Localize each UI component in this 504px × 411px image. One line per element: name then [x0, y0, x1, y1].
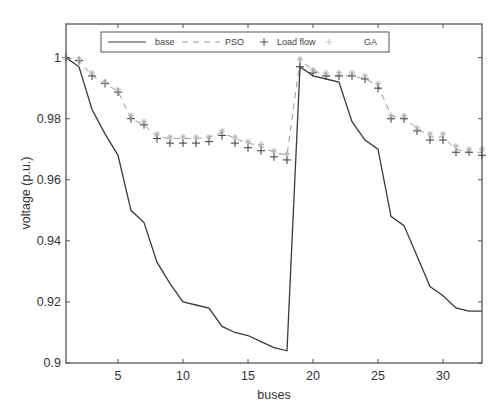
x-tick-label: 10: [176, 369, 190, 383]
x-axis-label: buses: [257, 388, 290, 402]
y-tick-label: 0.92: [37, 295, 61, 309]
y-tick-label: 0.94: [37, 234, 61, 248]
y-tick-label: 0.96: [37, 173, 61, 187]
voltage-profile-chart: 510152025300.90.920.940.960.981 buses vo…: [0, 0, 504, 411]
y-tick-label: 0.9: [44, 356, 61, 370]
legend-label-ga: GA: [364, 37, 377, 47]
chart-background: [0, 0, 504, 411]
legend: base PSO Load flow GA: [101, 32, 389, 52]
legend-label-pso: PSO: [225, 37, 244, 47]
y-tick-label: 0.98: [37, 112, 61, 126]
y-tick-label: 1: [54, 51, 61, 65]
x-tick-label: 30: [436, 369, 450, 383]
x-tick-label: 5: [115, 369, 122, 383]
x-tick-label: 15: [241, 369, 255, 383]
legend-label-loadflow: Load flow: [277, 37, 316, 47]
y-axis-label: voltage (p.u.): [19, 157, 33, 230]
legend-label-base: base: [155, 37, 175, 47]
x-tick-label: 25: [371, 369, 385, 383]
x-tick-label: 20: [306, 369, 320, 383]
